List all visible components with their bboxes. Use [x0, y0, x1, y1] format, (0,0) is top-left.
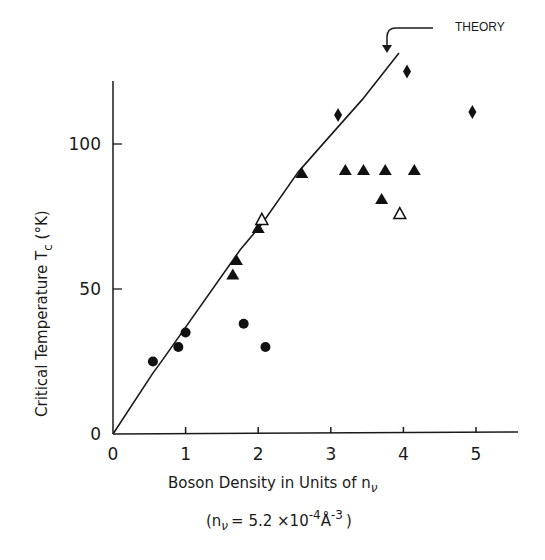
diamond-marker-icon [468, 105, 476, 119]
diamond-marker-icon [403, 65, 411, 79]
open-triangle-marker-icon [394, 208, 406, 219]
diamond-marker-icon [334, 108, 342, 122]
theory-line [113, 53, 399, 434]
circle-marker-icon [148, 357, 158, 367]
theory-arrow [387, 28, 433, 46]
theory-curve [113, 53, 399, 434]
filled-triangle-marker-icon [230, 254, 243, 265]
filled-triangle-marker-icon [408, 164, 421, 175]
data-markers [148, 65, 476, 367]
y-tick-label: 100 [69, 134, 101, 154]
filled-triangle-marker-icon [357, 164, 370, 175]
circle-marker-icon [181, 328, 191, 338]
x-tick-label: 0 [108, 444, 119, 464]
filled-triangle-marker-icon [379, 164, 392, 175]
x-tick-label: 5 [471, 444, 482, 464]
x-tick-label: 1 [180, 444, 191, 464]
x-axis-title: Boson Density in Units of nν [168, 474, 378, 495]
circle-marker-icon [260, 342, 270, 352]
arrowhead-icon [382, 45, 392, 53]
axes [113, 81, 518, 434]
theory-label: THEORY [455, 20, 505, 34]
filled-triangle-marker-icon [226, 269, 239, 280]
y-ticks: 050100 [69, 134, 122, 444]
y-axis-title: Critical Temperature Tc (°K) [33, 210, 55, 417]
y-tick-label: 50 [79, 279, 101, 299]
y-tick-label: 0 [90, 424, 101, 444]
x-tick-label: 2 [253, 444, 264, 464]
x-axis [113, 432, 518, 434]
x-tick-label: 3 [325, 444, 336, 464]
filled-triangle-marker-icon [375, 193, 388, 204]
chart: 012345 050100 THEORY Boson Density in Un… [0, 0, 545, 560]
x-axis-note: (nν= 5.2 ×10-4Å-3) [206, 508, 352, 533]
filled-triangle-marker-icon [339, 164, 352, 175]
circle-marker-icon [173, 342, 183, 352]
x-tick-label: 4 [398, 444, 409, 464]
circle-marker-icon [239, 319, 249, 329]
theory-annotation: THEORY [382, 20, 505, 53]
